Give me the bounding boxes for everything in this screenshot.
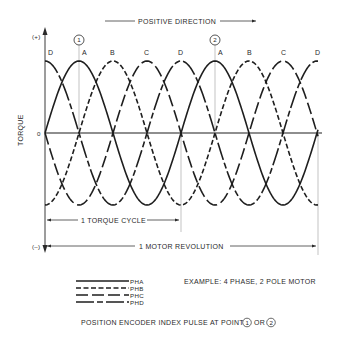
svg-text:1: 1 <box>77 36 81 43</box>
peak-label: A <box>82 49 87 56</box>
svg-text:1: 1 <box>245 319 249 326</box>
peak-label: A <box>218 49 223 56</box>
svg-text:2: 2 <box>269 319 273 326</box>
peak-label: D <box>178 49 183 56</box>
peak-label: D <box>48 49 53 56</box>
legend-label-pha: PHA <box>130 278 144 285</box>
y-axis: (+) 0 (–) TORQUE <box>17 27 48 253</box>
index-marker-2: 2 <box>210 35 220 45</box>
torque-cycle-span: 1 TORQUE CYCLE <box>47 217 179 225</box>
peak-label: C <box>144 49 149 56</box>
legend-label-phd: PHD <box>130 299 144 306</box>
peak-label: C <box>281 49 286 56</box>
axis-up-arrow-icon <box>43 27 48 35</box>
y-axis-title: TORQUE <box>17 114 25 146</box>
minus-label: (–) <box>32 243 40 250</box>
index-marker-1: 1 <box>74 35 84 45</box>
peak-label: B <box>110 49 115 56</box>
legend: PHA PHB PHC PHD <box>76 278 144 306</box>
peak-labels: D A B C D A B C D <box>48 49 320 56</box>
zero-label: 0 <box>37 130 41 137</box>
footer-text: POSITION ENCODER INDEX PULSE AT POINTS <box>81 319 249 326</box>
legend-label-phc: PHC <box>130 292 144 299</box>
footer-or: OR <box>254 319 265 326</box>
legend-label-phb: PHB <box>130 285 144 292</box>
axis-down-arrow-icon <box>43 245 48 253</box>
torque-cycle-label: 1 TORQUE CYCLE <box>81 217 146 225</box>
plus-label: (+) <box>32 33 41 40</box>
peak-label: B <box>247 49 252 56</box>
motor-revolution-span: 1 MOTOR REVOLUTION <box>47 243 316 250</box>
example-note: EXAMPLE: 4 PHASE, 2 POLE MOTOR <box>184 278 316 285</box>
svg-text:2: 2 <box>213 36 217 43</box>
direction-label: POSITIVE DIRECTION <box>138 18 216 25</box>
peak-label: D <box>315 49 320 56</box>
positive-direction-indicator: POSITIVE DIRECTION <box>105 18 256 25</box>
footer-note: POSITION ENCODER INDEX PULSE AT POINTS 1… <box>81 318 275 327</box>
motor-revolution-label: 1 MOTOR REVOLUTION <box>139 243 224 250</box>
torque-diagram: POSITIVE DIRECTION (+) 0 (–) TORQUE D A … <box>0 0 338 337</box>
